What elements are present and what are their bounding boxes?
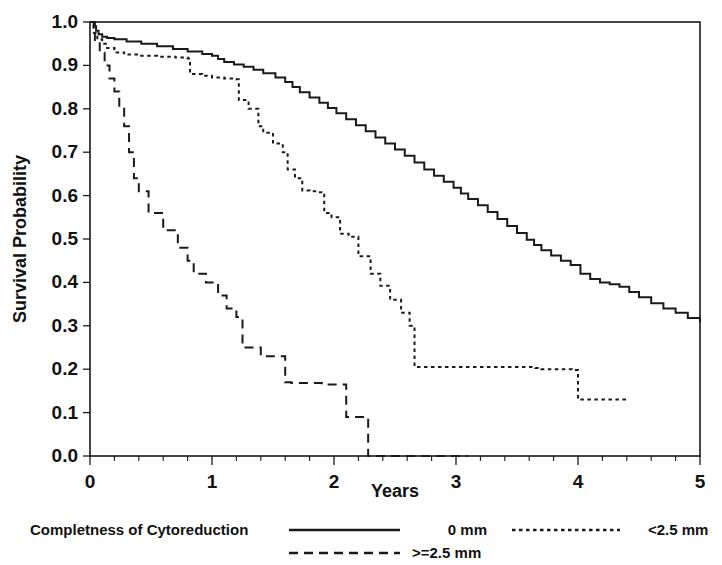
survival-chart-figure: 0.00.10.20.30.40.50.60.70.80.91.0 012345… [0, 0, 722, 565]
curve-0-mm [90, 22, 700, 322]
curve--2-5-mm [90, 22, 627, 400]
curve--2-5-mm [90, 22, 468, 456]
legend: Completness of Cytoreduction 0 mm <2.5 m… [30, 521, 708, 561]
legend-label-0mm: 0 mm [448, 521, 487, 538]
x-tick-label: 4 [573, 471, 584, 492]
x-axis-title: Years [371, 481, 419, 501]
y-tick-label: 0.9 [52, 54, 78, 75]
chart-svg: 0.00.10.20.30.40.50.60.70.80.91.0 012345… [0, 0, 722, 565]
y-tick-label: 0.3 [52, 315, 78, 336]
survival-curves [90, 22, 700, 456]
plot-frame [90, 22, 700, 456]
y-tick-label: 0.1 [52, 402, 79, 423]
legend-label-gte25mm: >=2.5 mm [412, 544, 481, 561]
y-axis-ticks [83, 22, 90, 456]
y-tick-label: 0.4 [52, 271, 79, 292]
y-tick-label: 0.7 [52, 141, 78, 162]
legend-title: Completness of Cytoreduction [30, 521, 248, 538]
y-tick-label: 0.6 [52, 185, 78, 206]
x-tick-label: 3 [451, 471, 462, 492]
x-tick-label: 2 [329, 471, 340, 492]
y-axis-title: Survival Probability [10, 155, 30, 323]
y-axis-tick-labels: 0.00.10.20.30.40.50.60.70.80.91.0 [52, 11, 79, 466]
x-tick-label: 0 [85, 471, 96, 492]
x-tick-label: 5 [695, 471, 706, 492]
y-tick-label: 0.0 [52, 445, 78, 466]
y-tick-label: 0.8 [52, 98, 78, 119]
y-tick-label: 1.0 [52, 11, 78, 32]
y-tick-label: 0.5 [52, 228, 79, 249]
y-tick-label: 0.2 [52, 358, 78, 379]
x-axis-ticks [90, 456, 700, 465]
x-tick-label: 1 [207, 471, 218, 492]
legend-label-lt25mm: <2.5 mm [648, 521, 708, 538]
